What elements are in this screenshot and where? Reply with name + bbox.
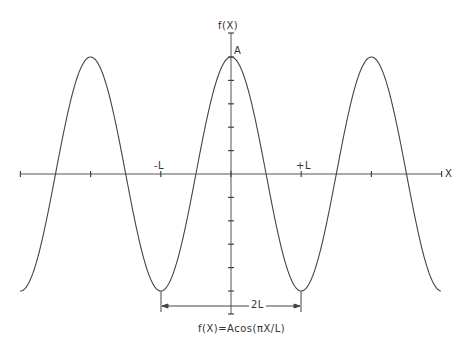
amplitude-label: A (234, 46, 241, 56)
arrow-right-icon (294, 304, 300, 308)
tick-label-neg-L: -L (154, 161, 164, 171)
x-axis-label: X (445, 169, 452, 179)
arrow-left-icon (162, 304, 168, 308)
y-axis-label: f(X) (218, 21, 238, 31)
tick-label-pos-L: +L (296, 161, 311, 171)
dimension-label: 2L (251, 300, 264, 310)
formula-caption: f(X)=Acos(πX/L) (198, 324, 285, 334)
